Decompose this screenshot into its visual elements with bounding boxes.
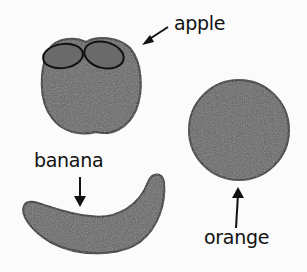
banana-arrow-icon: [74, 177, 86, 207]
apple-shape: [42, 38, 141, 134]
banana-shape: [23, 175, 164, 254]
banana-label: banana: [34, 149, 103, 171]
fruit-diagram: apple banana orange: [0, 0, 307, 272]
apple-arrow-icon: [142, 27, 168, 45]
apple-label: apple: [174, 12, 225, 34]
orange-arrow-icon: [232, 187, 244, 228]
orange-label: orange: [204, 226, 269, 248]
orange-shape: [189, 80, 289, 180]
